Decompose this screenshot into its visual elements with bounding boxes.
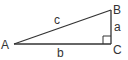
- right-angle-marker: [103, 36, 111, 44]
- vertex-label-b: B: [113, 3, 121, 17]
- side-c-hypotenuse: [14, 10, 111, 44]
- right-triangle-diagram: A B C a b c: [0, 0, 128, 60]
- side-label-b: b: [57, 46, 64, 60]
- triangle: [14, 10, 111, 44]
- vertex-label-a: A: [1, 38, 9, 52]
- side-label-a: a: [114, 20, 121, 34]
- vertex-label-c: C: [113, 43, 122, 57]
- side-label-c: c: [54, 13, 60, 27]
